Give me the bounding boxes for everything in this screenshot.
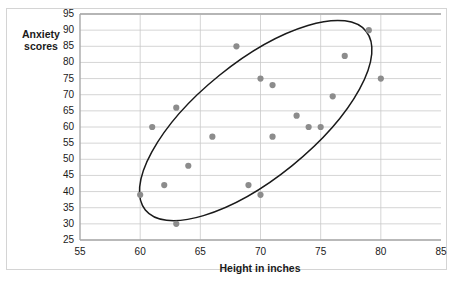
data-point: [366, 27, 372, 33]
scatter-chart: Anxiety scores Height in inches 95908580…: [0, 0, 455, 282]
data-point: [318, 124, 324, 130]
data-point: [294, 113, 300, 119]
data-point: [173, 221, 179, 227]
data-point: [306, 124, 312, 130]
data-point: [330, 93, 336, 99]
data-point: [257, 75, 263, 81]
plot-area: [0, 0, 455, 282]
data-point: [173, 105, 179, 111]
data-point: [342, 53, 348, 59]
data-point: [233, 43, 239, 49]
data-point: [245, 182, 251, 188]
data-point: [149, 124, 155, 130]
gridlines: [80, 14, 441, 240]
data-point: [269, 134, 275, 140]
data-point: [209, 134, 215, 140]
data-point: [161, 182, 167, 188]
data-point: [185, 163, 191, 169]
data-point: [257, 192, 263, 198]
data-point: [137, 192, 143, 198]
data-point: [378, 75, 384, 81]
data-point: [269, 82, 275, 88]
